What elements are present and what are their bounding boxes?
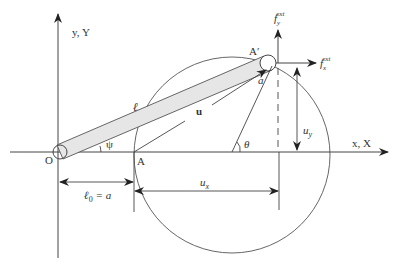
uy-subscript: y [308,130,313,139]
fx-ext-label: fxext [320,55,331,72]
point-a-prime-label: A′ [249,45,259,57]
point-a-label: A [137,155,145,167]
l0-label: ℓ0 = a [84,189,112,204]
ux-subscript: x [205,182,210,191]
rod-displacement-diagram: y, Y x, X O A A′ ℓ u ψ θ a ℓ0 = a ux uy … [0,0,400,272]
y-axis-label: y, Y [72,26,90,38]
fy-ext-label: fyext [274,10,285,27]
fx-subscript: x [322,64,327,72]
rod-length-label: ℓ [133,100,138,114]
pin-a-prime [260,55,276,71]
u-vector-label: u [196,105,202,117]
fy-subscript: y [276,19,281,27]
psi-label: ψ [106,138,113,150]
rod [57,56,272,159]
theta-label: θ [244,138,250,150]
theta-angle-arc [237,142,240,152]
origin-label: O [45,154,53,166]
uy-label: uy [303,124,313,139]
fy-superscript: ext [276,10,285,18]
x-axis-label: x, X [352,137,371,149]
l0-equals-a: = a [93,189,112,201]
fx-superscript: ext [322,55,331,63]
psi-angle-arc [100,146,101,152]
radius-a-label: a [258,74,264,86]
ux-label: ux [200,176,210,191]
